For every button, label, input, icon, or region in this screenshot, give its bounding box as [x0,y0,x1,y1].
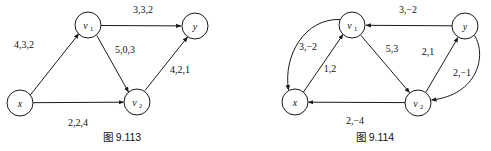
node-v2-subscript: 2 [139,102,142,109]
edge-label-v2-y: 2,1 [422,46,435,57]
edge-label-v2-x: 2,−4 [346,115,364,126]
node-v2-label: v [132,97,137,108]
edges-group-right [288,19,480,102]
node-v1-label: v [83,20,88,31]
node-x-label: x [17,98,23,109]
edge-x-v2 [33,102,124,103]
nodes-group-right: x v 1 y v 2 [282,12,478,116]
node-x-label: x [292,97,298,108]
edge-y-v1 [366,25,452,26]
node-y-label: y [192,21,198,32]
node-v2[interactable] [405,90,431,116]
node-v1-subscript: 1 [354,25,357,32]
figure-pair-container: x v 1 y v 2 4,3,2 3,3,2 5,0,3 2,2,4 4,2,… [0,0,491,151]
figure-caption-left: 图 9.113 [103,131,142,143]
figure-9-114: x v 1 y v 2 3,−2 1,2 3,−2 5,3 2,1 2,−1 2… [282,4,480,143]
node-v1[interactable] [339,12,365,38]
edge-label-v1-x-curved: 3,−2 [299,41,317,52]
node-v1-label: v [347,20,352,31]
node-v1[interactable] [75,12,101,38]
edge-label-v2-y: 4,2,1 [170,64,190,75]
node-v2-label: v [413,98,418,109]
node-v1-subscript: 1 [90,25,93,32]
edge-label-v1-y: 3,3,2 [133,4,153,15]
edge-label-v1-v2: 5,3 [386,43,399,54]
edge-v1-x-curved [288,19,341,90]
figure-caption-right: 图 9.114 [356,131,395,143]
node-y-label: y [462,21,468,32]
edge-label-x-v2: 2,2,4 [68,117,88,128]
node-v2-subscript: 2 [420,103,423,110]
edge-labels-group-left: 4,3,2 3,3,2 5,0,3 2,2,4 4,2,1 [14,4,190,128]
node-v2[interactable] [124,89,150,115]
graph-diagrams-svg: x v 1 y v 2 4,3,2 3,3,2 5,0,3 2,2,4 4,2,… [0,0,491,151]
edge-x-v1 [30,34,79,95]
edges-group-left [30,26,187,103]
edge-label-y-v2-curved: 2,−1 [453,67,471,78]
edge-label-v1-v2: 5,0,3 [115,44,135,55]
figure-9-113: x v 1 y v 2 4,3,2 3,3,2 5,0,3 2,2,4 4,2,… [7,4,208,143]
edge-label-x-v1: 1,2 [324,63,337,74]
edge-labels-group-right: 3,−2 1,2 3,−2 5,3 2,1 2,−1 2,−4 [299,4,471,126]
edge-label-y-v1: 3,−2 [399,4,417,15]
edge-label-x-v1: 4,3,2 [14,39,34,50]
